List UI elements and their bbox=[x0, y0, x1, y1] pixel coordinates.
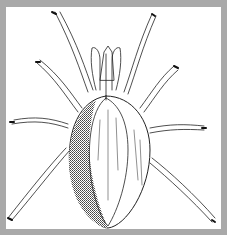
leg-right-3 bbox=[150, 125, 204, 133]
image-frame bbox=[0, 0, 227, 235]
illustration-canvas bbox=[6, 7, 221, 229]
leg-left-4 bbox=[8, 148, 70, 220]
mite-illustration bbox=[6, 7, 221, 229]
leg-right-1 bbox=[124, 14, 156, 94]
leg-left-3 bbox=[12, 118, 68, 128]
leg-left-2 bbox=[36, 60, 82, 112]
leg-right-4 bbox=[150, 158, 215, 222]
leg-right-2 bbox=[140, 66, 178, 112]
